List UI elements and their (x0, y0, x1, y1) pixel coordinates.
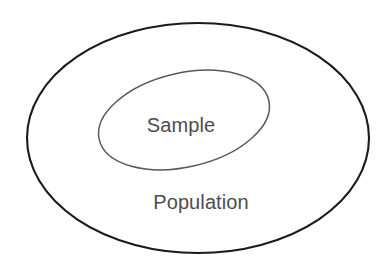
venn-diagram-canvas: Sample Population (0, 0, 391, 266)
venn-diagram-figure: Sample Population (0, 0, 391, 266)
sample-label: Sample (147, 114, 215, 136)
population-label: Population (153, 191, 249, 213)
